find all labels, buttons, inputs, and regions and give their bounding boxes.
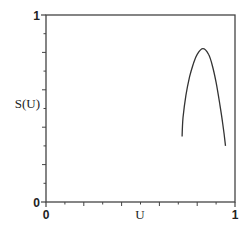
x-axis-label: U [135, 207, 145, 222]
plot-frame [46, 15, 235, 202]
y-axis-ticks [41, 15, 235, 207]
chart: 1 0 0 1 S(U) U [0, 0, 251, 232]
y-axis-label: S(U) [15, 96, 40, 111]
data-series-line [182, 49, 225, 146]
x-tick-label-min: 0 [43, 208, 50, 222]
x-tick-label-max: 1 [232, 208, 239, 222]
y-tick-label-min: 0 [33, 196, 40, 210]
y-tick-label-max: 1 [33, 9, 40, 23]
